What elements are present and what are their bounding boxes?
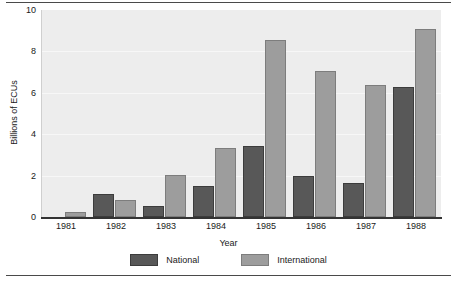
chart-figure: 0246810 Billions of ECUs 198119821983198… [0, 0, 457, 282]
bar-international-1986 [315, 71, 336, 217]
chart-legend: NationalInternational [0, 254, 457, 266]
legend-label: International [277, 256, 327, 265]
legend-item-national[interactable]: National [130, 254, 199, 266]
y-tick-label: 10 [6, 6, 36, 15]
y-tick-label: 0 [6, 213, 36, 222]
x-tick-label: 1981 [41, 221, 91, 231]
bar-group [241, 10, 291, 217]
x-tick-label: 1988 [391, 221, 441, 231]
x-tick-label: 1984 [191, 221, 241, 231]
x-tick-label: 1985 [241, 221, 291, 231]
bar-national-1985 [243, 146, 264, 217]
bar-international-1982 [115, 200, 136, 217]
bar-international-1983 [165, 175, 186, 217]
legend-label: National [166, 256, 199, 265]
bar-national-1982 [93, 194, 114, 217]
bar-group [41, 10, 91, 217]
bar-international-1988 [415, 29, 436, 217]
bar-national-1987 [343, 183, 364, 217]
top-rule [6, 2, 451, 3]
bar-national-1983 [143, 206, 164, 217]
x-axis-line [41, 217, 442, 219]
bar-national-1984 [193, 186, 214, 217]
x-tick-label: 1983 [141, 221, 191, 231]
x-axis-title: Year [0, 238, 457, 248]
x-tick-label: 1987 [341, 221, 391, 231]
bar-international-1985 [265, 40, 286, 217]
x-tick-label: 1986 [291, 221, 341, 231]
bar-group [291, 10, 341, 217]
x-tick-label: 1982 [91, 221, 141, 231]
y-axis-title: Billions of ECUs [10, 48, 19, 178]
legend-item-international[interactable]: International [241, 254, 327, 266]
bar-group [91, 10, 141, 217]
bar-national-1986 [293, 176, 314, 217]
bar-international-1987 [365, 85, 386, 217]
bottom-rule [6, 275, 451, 276]
legend-swatch-icon [130, 254, 158, 266]
bar-group [391, 10, 441, 217]
legend-swatch-icon [241, 254, 269, 266]
bar-group [341, 10, 391, 217]
bar-group [141, 10, 191, 217]
bar-national-1988 [393, 87, 414, 217]
bar-international-1981 [65, 212, 86, 217]
bar-international-1984 [215, 148, 236, 217]
bar-group [191, 10, 241, 217]
